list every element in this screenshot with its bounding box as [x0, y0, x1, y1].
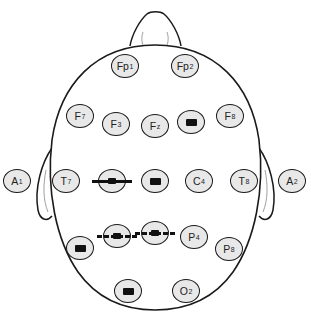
electrode-fp2: Fp2 [171, 54, 199, 78]
electrode-a2: A2 [278, 169, 306, 193]
electrode-label: O [180, 286, 188, 297]
electrode-subscript: 4 [196, 234, 200, 241]
electrode-c3 [98, 169, 126, 193]
electrode-subscript: z [157, 123, 161, 130]
electrode-c4: C4 [185, 169, 213, 193]
electrode-subscript: 8 [231, 246, 235, 253]
head-outline [0, 0, 311, 321]
strikethrough-mark [97, 235, 137, 238]
electrode-a1: A1 [3, 169, 31, 193]
electrode-label: Fp [177, 61, 189, 72]
electrode-label: F [150, 121, 156, 132]
electrode-label: P [223, 244, 230, 255]
eeg-electrode-diagram: Fp1Fp2F7F3FzF8A1T7C4T8A2P4P8O2 [0, 0, 311, 321]
electrode-subscript: 1 [19, 178, 23, 185]
redaction-mark [150, 178, 161, 185]
electrode-subscript: 8 [232, 113, 236, 120]
electrode-cz [141, 169, 169, 193]
electrode-subscript: 7 [82, 113, 86, 120]
electrode-o1 [114, 279, 142, 303]
electrode-f3: F3 [102, 112, 130, 136]
electrode-label: A [11, 176, 18, 187]
electrode-p8: P8 [215, 237, 243, 261]
electrode-p3 [103, 224, 131, 248]
electrode-p4: P4 [180, 225, 208, 249]
electrode-label: A [286, 176, 293, 187]
strikethrough-mark [135, 232, 175, 235]
nose-shape [130, 12, 181, 46]
electrode-pz [141, 221, 169, 245]
electrode-o2: O2 [172, 279, 200, 303]
redaction-mark [75, 245, 86, 252]
electrode-label: F [225, 111, 231, 122]
electrode-label: P [188, 232, 195, 243]
electrode-f7: F7 [66, 104, 94, 128]
electrode-label: Fp [117, 61, 129, 72]
electrode-f4 [177, 110, 205, 134]
redaction-mark [123, 288, 134, 295]
redaction-mark [186, 119, 197, 126]
electrode-subscript: 3 [118, 121, 122, 128]
electrode-p7 [66, 236, 94, 260]
electrode-f8: F8 [216, 104, 244, 128]
electrode-subscript: 1 [129, 63, 133, 70]
electrode-label: C [193, 176, 201, 187]
electrode-fp1: Fp1 [111, 54, 139, 78]
electrode-fz: Fz [141, 114, 169, 138]
electrode-label: F [75, 111, 81, 122]
electrode-subscript: 7 [68, 178, 72, 185]
electrode-t7: T7 [52, 169, 80, 193]
strikethrough-mark [92, 180, 132, 183]
electrode-label: T [239, 176, 245, 187]
electrode-subscript: 2 [189, 63, 193, 70]
electrode-subscript: 4 [201, 178, 205, 185]
electrode-label: F [111, 119, 117, 130]
electrode-label: T [61, 176, 67, 187]
electrode-subscript: 2 [294, 178, 298, 185]
electrode-subscript: 8 [246, 178, 250, 185]
electrode-t8: T8 [230, 169, 258, 193]
electrode-subscript: 2 [188, 288, 192, 295]
